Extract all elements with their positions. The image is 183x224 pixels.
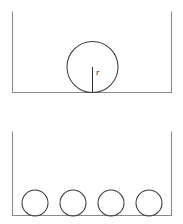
small-circle-3 bbox=[98, 190, 124, 216]
geometry-figure: r bbox=[0, 0, 183, 224]
small-circle-2 bbox=[60, 190, 86, 216]
bottom-panel bbox=[13, 132, 172, 216]
small-circle-1 bbox=[22, 190, 48, 216]
bottom-container-walls bbox=[13, 132, 172, 216]
small-circle-4 bbox=[136, 190, 162, 216]
radius-label: r bbox=[96, 67, 100, 77]
top-panel: r bbox=[13, 12, 172, 93]
figure-canvas: r bbox=[0, 0, 183, 224]
